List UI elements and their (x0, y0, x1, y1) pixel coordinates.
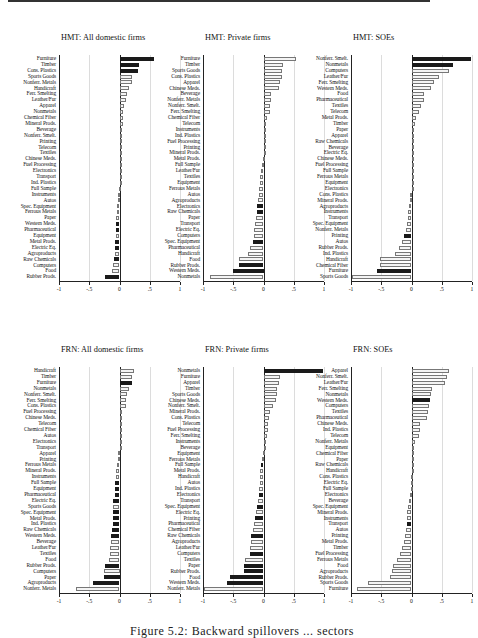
data-bar (407, 522, 412, 526)
data-bar (111, 534, 119, 538)
data-bar (244, 564, 263, 568)
data-bar (412, 446, 414, 450)
gridline (442, 55, 443, 281)
data-bar (264, 440, 266, 444)
data-bar (412, 187, 414, 191)
data-bar (244, 569, 264, 573)
data-bar (112, 528, 120, 532)
category-label: Nonmetals (120, 273, 200, 279)
x-tick-label: -.5 (230, 286, 236, 292)
chart-title: HMT: SOEs (353, 33, 478, 42)
gridline (472, 367, 473, 593)
gridline (233, 55, 234, 281)
x-tick (203, 594, 204, 597)
data-bar (412, 387, 433, 391)
data-bar (400, 552, 411, 556)
data-bar (110, 552, 120, 556)
x-tick (442, 282, 443, 285)
x-tick-label: .5 (292, 598, 296, 604)
y-axis (203, 55, 204, 281)
data-bar (239, 257, 263, 261)
data-bar (113, 263, 119, 267)
data-bar (412, 145, 414, 149)
data-bar (412, 422, 420, 426)
data-bar (260, 181, 264, 185)
data-bar (104, 569, 119, 573)
data-bar (380, 263, 411, 267)
gridline (89, 367, 90, 593)
data-bar (412, 139, 414, 143)
data-bar (262, 163, 264, 167)
data-bar (115, 252, 120, 256)
data-bar (407, 510, 411, 514)
data-bar (227, 581, 263, 585)
x-tick-label: -.5 (378, 598, 384, 604)
data-bar (409, 204, 411, 208)
gridline (442, 367, 443, 593)
x-tick-label: -1 (349, 598, 354, 604)
category-label: Nonferr. Metals (0, 585, 56, 591)
data-bar (105, 564, 120, 568)
data-bar (412, 416, 428, 420)
x-tick-label: 0 (262, 286, 265, 292)
data-bar (259, 187, 263, 191)
x-tick (233, 594, 234, 597)
x-tick (294, 594, 295, 597)
data-bar (393, 564, 411, 568)
data-bar (411, 487, 413, 491)
category-label: Nonferr. Metals (120, 585, 200, 591)
x-tick (381, 282, 382, 285)
data-bar (259, 193, 264, 197)
data-bar (250, 552, 264, 556)
data-bar (412, 128, 414, 132)
plot-area: -1-.50.51 (351, 367, 472, 593)
x-tick (381, 594, 382, 597)
x-tick (412, 594, 413, 597)
data-bar (412, 410, 429, 414)
data-bar (410, 198, 412, 202)
panel-frn-soes: FRN: SOEsApparelNonferr. Smelt.Leather/F… (298, 345, 446, 635)
data-bar (253, 240, 264, 244)
data-bar (204, 587, 263, 591)
x-tick-label: -.5 (86, 286, 92, 292)
data-bar (260, 175, 263, 179)
data-bar (115, 481, 119, 485)
x-tick-label: .5 (292, 286, 296, 292)
data-bar (264, 434, 267, 438)
x-tick (120, 594, 121, 597)
data-bar (259, 487, 263, 491)
data-bar (258, 198, 263, 202)
category-label: Rubber Prods. (0, 273, 56, 279)
data-bar (264, 134, 266, 138)
data-bar (408, 210, 411, 214)
data-bar (104, 575, 119, 579)
data-bar (405, 534, 411, 538)
x-tick-label: 0 (118, 286, 121, 292)
data-bar (412, 392, 432, 396)
data-bar (239, 263, 264, 267)
data-bar (257, 210, 264, 214)
x-tick (59, 282, 60, 285)
data-bar (256, 216, 263, 220)
data-bar (263, 451, 265, 455)
figure-caption: Figure 5.2: Backward spillovers ... sect… (130, 624, 354, 638)
data-bar (412, 151, 414, 155)
x-tick (89, 282, 90, 285)
data-bar (352, 275, 411, 279)
data-bar (412, 428, 420, 432)
data-bar (113, 522, 120, 526)
data-bar (258, 499, 263, 503)
y-axis (203, 367, 204, 593)
data-bar (251, 540, 264, 544)
data-bar (260, 481, 264, 485)
data-bar (411, 481, 413, 485)
data-bar (412, 381, 446, 385)
x-tick-label: .5 (440, 286, 444, 292)
x-tick (472, 594, 473, 597)
data-bar (115, 246, 120, 250)
gridline (472, 55, 473, 281)
category-label: Furniture (268, 585, 348, 591)
x-tick (120, 282, 121, 285)
data-bar (412, 369, 450, 373)
data-bar (412, 440, 416, 444)
